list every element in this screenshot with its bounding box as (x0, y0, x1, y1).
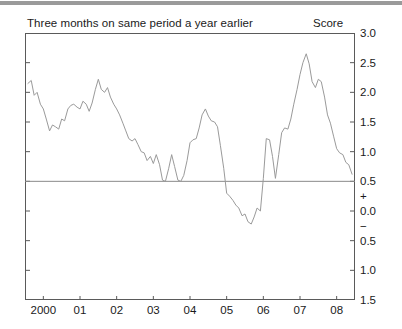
x-tick-label: 03 (147, 304, 160, 316)
x-tick-label: 2000 (31, 304, 57, 316)
y-axis-sign-marker: + (360, 190, 367, 202)
x-tick-label: 07 (294, 304, 307, 316)
y-tick-label: 3.0 (360, 27, 376, 39)
x-tick-label: 08 (330, 304, 343, 316)
x-tick-label: 05 (220, 304, 233, 316)
right-axis-ticks (350, 63, 355, 271)
y-tick-label: 2.5 (360, 57, 376, 69)
series-line-score (28, 54, 352, 224)
x-tick-label: 01 (74, 304, 87, 316)
bottom-axis-ticks (43, 296, 336, 300)
y-tick-label: 0.5 (360, 175, 376, 187)
y-axis-caption: Score (313, 17, 343, 29)
plot-area (25, 33, 355, 300)
x-tick-label: 04 (184, 304, 197, 316)
y-tick-label: 1.0 (360, 146, 376, 158)
y-tick-label: 0.5 (360, 235, 376, 247)
y-tick-label: 2.0 (360, 86, 376, 98)
y-tick-label: 1.5 (360, 116, 376, 128)
y-axis-sign-marker: − (360, 220, 367, 232)
y-tick-label: 0.0 (360, 205, 376, 217)
y-tick-label: 1.5 (360, 294, 376, 306)
x-tick-label: 02 (110, 304, 123, 316)
chart-title: Three months on same period a year earli… (27, 17, 253, 29)
left-axis-ticks (25, 63, 30, 271)
y-tick-label: 1.0 (360, 264, 376, 276)
x-tick-label: 06 (257, 304, 270, 316)
chart-figure: Three months on same period a year earli… (0, 0, 402, 329)
